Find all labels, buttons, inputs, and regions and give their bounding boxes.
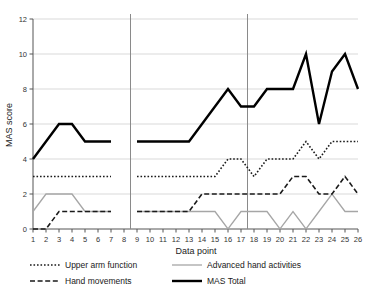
y-tick-label: 0 [23,225,27,234]
phase-separator-lines [131,14,248,229]
x-tick-label: 11 [159,235,167,244]
x-tick-label: 17 [237,235,245,244]
gridlines [33,19,358,194]
x-tick-label: 3 [57,235,61,244]
x-tick-label: 10 [146,235,154,244]
y-tick-label: 12 [19,15,27,24]
x-tick-label: 20 [276,235,284,244]
x-tick-label: 8 [122,235,126,244]
legend-item-upper-arm-function: Upper arm function [30,260,138,270]
legend-label-mas-total: MAS Total [207,276,246,286]
x-tick-label: 9 [135,235,139,244]
x-tick-label: 26 [354,235,362,244]
x-tick-label: 4 [70,235,74,244]
x-axis-ticks: 1234567891011121314151617181920212223242… [31,229,362,244]
y-tick-label: 4 [23,155,27,164]
chart-figure: 024681012 123456789101112131415161718192… [0,0,365,294]
legend-label-hand-movements: Hand movements [65,276,132,286]
x-tick-label: 24 [328,235,336,244]
mas-score-line-chart: 024681012 123456789101112131415161718192… [0,0,365,294]
y-tick-label: 2 [23,190,27,199]
series-line-advanced-hand-activities [33,194,111,212]
x-tick-label: 18 [250,235,258,244]
legend-label-upper-arm-function: Upper arm function [65,260,138,270]
data-series-layer [33,54,358,229]
y-tick-label: 10 [19,50,27,59]
series-line-mas-total [33,124,111,159]
x-tick-label: 6 [96,235,100,244]
x-tick-label: 25 [341,235,349,244]
x-tick-label: 7 [109,235,113,244]
x-tick-label: 14 [198,235,206,244]
legend: Upper arm functionAdvanced hand activiti… [30,260,301,286]
x-tick-label: 13 [185,235,193,244]
y-tick-label: 6 [23,120,27,129]
legend-item-advanced-hand-activities: Advanced hand activities [172,260,301,270]
y-tick-label: 8 [23,85,27,94]
series-line-hand-movements [33,212,111,230]
x-axis-label: Data point [175,246,217,256]
legend-item-hand-movements: Hand movements [30,276,132,286]
x-tick-label: 16 [224,235,232,244]
x-tick-label: 21 [289,235,297,244]
x-tick-label: 5 [83,235,87,244]
x-tick-label: 12 [172,235,180,244]
x-tick-label: 23 [315,235,323,244]
legend-label-advanced-hand-activities: Advanced hand activities [207,260,301,270]
x-tick-label: 22 [302,235,310,244]
x-tick-label: 1 [31,235,35,244]
x-tick-label: 19 [263,235,271,244]
y-axis-ticks: 024681012 [19,15,33,234]
legend-item-mas-total: MAS Total [172,276,246,286]
x-tick-label: 15 [211,235,219,244]
x-tick-label: 2 [44,235,48,244]
y-axis-label: MAS score [4,103,14,147]
